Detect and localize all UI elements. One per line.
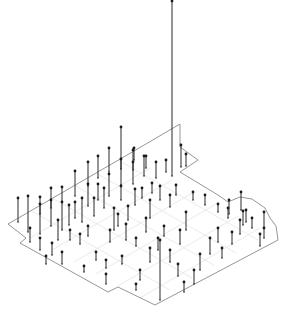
stem-marker	[105, 259, 108, 262]
stem-marker	[79, 233, 82, 236]
stem-marker	[259, 233, 262, 236]
region-outline	[8, 124, 278, 305]
stem-marker	[240, 191, 243, 194]
stem-marker	[245, 209, 248, 212]
data-stem	[108, 173, 111, 197]
data-stem	[157, 237, 160, 251]
data-stem	[39, 203, 42, 235]
stem-marker	[180, 144, 183, 147]
stem-marker	[61, 201, 64, 204]
stem-marker	[169, 249, 172, 252]
stem-marker	[29, 227, 32, 230]
stem-marker	[109, 229, 112, 232]
stem-marker	[81, 197, 84, 200]
stem-marker	[125, 223, 128, 226]
data-stem	[239, 219, 242, 235]
data-stem	[217, 203, 220, 213]
data-stem	[185, 153, 188, 167]
stem-marker	[87, 161, 90, 164]
stem-marker	[105, 273, 108, 276]
data-stem	[263, 211, 266, 229]
stem-marker	[159, 185, 162, 188]
data-stem	[159, 185, 162, 201]
data-stem	[179, 229, 182, 245]
stem-marker	[121, 255, 124, 258]
stem-marker	[74, 170, 77, 173]
data-stem	[74, 201, 77, 219]
stem-marker	[217, 203, 220, 206]
stem-marker	[108, 147, 111, 150]
data-stem	[103, 187, 106, 209]
data-stem	[259, 233, 262, 247]
stem-marker	[74, 201, 77, 204]
data-stem	[251, 217, 254, 229]
stem-marker	[117, 213, 120, 216]
stem-marker	[95, 251, 98, 254]
data-stem	[95, 251, 98, 261]
stem-marker	[135, 237, 138, 240]
stem-marker	[169, 194, 172, 197]
data-stem	[105, 273, 108, 285]
stem-plot-canvas	[0, 0, 281, 313]
data-stem	[217, 227, 220, 243]
data-stem	[199, 253, 202, 271]
data-stem	[93, 197, 96, 217]
data-stem	[134, 188, 137, 206]
data-stem	[81, 197, 84, 223]
stem-marker	[251, 217, 254, 220]
data-stem	[135, 283, 138, 291]
stem-marker	[151, 182, 154, 185]
stem-marker	[50, 187, 53, 190]
data-stem	[61, 201, 64, 231]
stem-marker	[120, 185, 123, 188]
stem-marker	[61, 186, 64, 189]
data-stem	[39, 237, 42, 251]
stem-marker	[177, 263, 180, 266]
data-stem	[171, 0, 174, 177]
stem-marker	[87, 225, 90, 228]
stem-marker	[149, 247, 152, 250]
data-stem	[87, 225, 90, 237]
stem-marker	[145, 217, 148, 220]
stem-marker	[127, 205, 130, 208]
stem-marker	[120, 126, 123, 129]
stem-marker	[27, 195, 30, 198]
data-stem	[83, 265, 86, 273]
stem-marker	[228, 199, 231, 202]
data-stem	[245, 209, 248, 223]
stem-marker	[68, 204, 71, 207]
stem-marker	[141, 187, 144, 190]
stem-marker	[179, 229, 182, 232]
stem-marker	[183, 281, 186, 284]
stem-marker	[185, 211, 188, 214]
stem-marker	[231, 231, 234, 234]
data-stem	[183, 281, 186, 293]
stem-marker	[263, 227, 266, 230]
stem-marker	[155, 161, 158, 164]
stem-marker	[39, 196, 42, 199]
stem-marker	[108, 173, 111, 176]
stem-marker	[139, 269, 142, 272]
data-stem	[231, 231, 234, 245]
data-stem	[108, 147, 111, 173]
stem-marker	[39, 203, 42, 206]
map-grid	[30, 160, 260, 298]
stem-marker	[217, 227, 220, 230]
stem-marker	[39, 237, 42, 240]
data-stems	[17, 0, 266, 301]
stem-marker	[221, 247, 224, 250]
stem-marker	[135, 283, 138, 286]
stem-marker	[239, 219, 242, 222]
data-stem	[263, 227, 266, 239]
grid-line	[118, 160, 258, 240]
stem-marker	[163, 225, 166, 228]
data-stem	[51, 242, 54, 256]
stem-marker	[132, 149, 135, 152]
data-stem	[165, 159, 168, 173]
stem-marker	[165, 159, 168, 162]
stem-marker	[93, 197, 96, 200]
map-outline	[8, 124, 278, 305]
stem-marker	[263, 211, 266, 214]
data-stem	[61, 186, 64, 203]
stem-marker	[69, 229, 72, 232]
